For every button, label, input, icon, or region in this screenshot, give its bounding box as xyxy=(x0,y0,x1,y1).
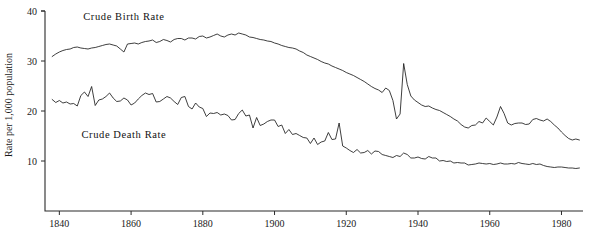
data-series-group xyxy=(52,33,579,169)
y-tick-labels: 10203040 xyxy=(27,6,37,167)
line-chart: 18401860188019001920194019601980 1020304… xyxy=(0,0,594,248)
series-line xyxy=(52,87,579,169)
axis-lines xyxy=(45,11,583,211)
y-tick-label: 40 xyxy=(27,6,37,17)
series-annotations: Crude Birth RateCrude Death Rate xyxy=(81,11,166,140)
axes-group xyxy=(41,11,583,215)
death-rate-label: Crude Death Rate xyxy=(81,129,166,140)
figure-caption xyxy=(6,239,306,248)
chart-container: 18401860188019001920194019601980 1020304… xyxy=(0,0,594,248)
y-tick-label: 10 xyxy=(27,156,37,167)
x-tick-label: 1840 xyxy=(49,218,69,229)
x-tick-labels: 18401860188019001920194019601980 xyxy=(49,218,571,229)
x-tick-label: 1880 xyxy=(193,218,213,229)
x-tick-label: 1960 xyxy=(480,218,500,229)
series-line xyxy=(52,33,579,140)
y-tick-label: 20 xyxy=(27,106,37,117)
tick-marks xyxy=(41,11,561,215)
y-axis-title: Rate per 1,000 population xyxy=(3,53,14,157)
x-tick-label: 1920 xyxy=(336,218,356,229)
x-tick-label: 1940 xyxy=(408,218,428,229)
y-tick-label: 30 xyxy=(27,56,37,67)
x-tick-label: 1900 xyxy=(265,218,285,229)
birth-rate-label: Crude Birth Rate xyxy=(83,11,164,22)
x-tick-label: 1860 xyxy=(121,218,141,229)
x-tick-label: 1980 xyxy=(551,218,571,229)
